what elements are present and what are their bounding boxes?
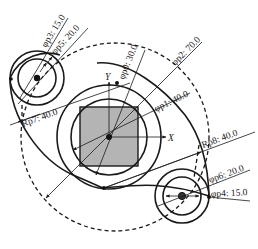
dim-label-p4[interactable]: φp4: 15.0: [211, 187, 248, 199]
cad-sketch-diagram: Y X φp0: 30.0 φp1: 40.0 φp2: 70.0 φp3: 1…: [0, 0, 258, 249]
center-point-upper-left: [34, 75, 40, 81]
dim-arrow-p3: [40, 63, 46, 72]
x-axis-label: X: [167, 133, 175, 143]
dim-label-p0[interactable]: φp0: 30.0: [117, 43, 140, 81]
tangent-point: [9, 77, 13, 81]
tangent-point: [115, 81, 119, 85]
profile-arc-upper-left[interactable]: [10, 53, 60, 78]
dim-label-p2[interactable]: φp2: 70.0: [169, 34, 202, 67]
dim-label-p6[interactable]: φp6: 20.0: [207, 163, 245, 185]
y-axis-label: Y: [105, 72, 112, 82]
dim-label-p1[interactable]: φp1: 40.0: [152, 89, 190, 114]
dim-label-p8[interactable]: Rp8: 40.0: [200, 128, 239, 150]
dim-label-p7[interactable]: Rp7: 40.0: [20, 107, 59, 129]
